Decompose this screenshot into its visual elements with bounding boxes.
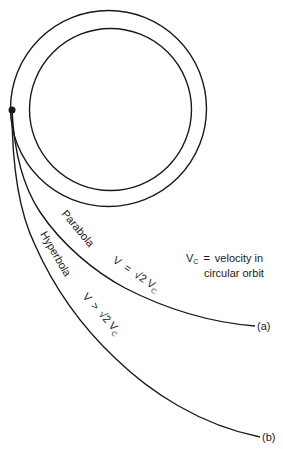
svg-text:circular orbit: circular orbit — [204, 267, 264, 279]
end-label-b: (b) — [262, 431, 275, 443]
parabola-trajectory — [12, 110, 255, 326]
parabola-condition: V=√2VC — [110, 254, 162, 295]
svg-text:VC=velocity in: VC=velocity in — [186, 252, 263, 265]
outer-orbit-circle — [11, 11, 207, 207]
end-label-a: (a) — [257, 320, 270, 332]
hyperbola-condition: V>√2VC — [79, 290, 124, 338]
legend: VC=velocity in circular orbit — [186, 252, 264, 279]
launch-point-dot — [9, 107, 16, 114]
inner-planet-circle — [30, 29, 192, 191]
svg-text:V>√2VC: V>√2VC — [79, 290, 124, 338]
svg-text:V=√2VC: V=√2VC — [110, 254, 162, 295]
hyperbola-label: Hyperbola — [38, 229, 74, 279]
orbit-diagram: Parabola Hyperbola V=√2VC V>√2VC (a) (b)… — [0, 0, 283, 449]
